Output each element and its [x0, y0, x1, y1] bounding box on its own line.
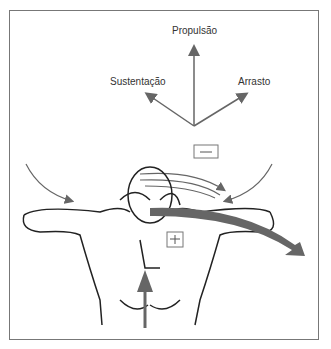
low-pressure-box: [194, 145, 218, 158]
diagram-canvas: [0, 0, 331, 349]
drag-arrow-icon: [194, 94, 246, 126]
high-pressure-box: [167, 232, 183, 247]
flow-arrow-right-icon: [225, 164, 272, 201]
swimmer-figure: [23, 167, 273, 325]
force-vectors: [147, 47, 246, 126]
lift-arrow-icon: [147, 94, 194, 126]
upward-propulsion-arrow-icon: [137, 270, 153, 328]
flow-arrow-left-icon: [26, 164, 72, 201]
